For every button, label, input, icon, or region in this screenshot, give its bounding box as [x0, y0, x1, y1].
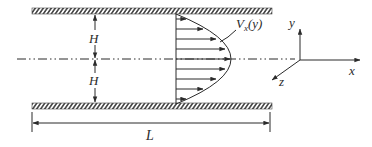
bottom-wall: [32, 103, 272, 109]
label-h-top: H: [88, 31, 99, 46]
top-wall: [32, 8, 272, 14]
label-length: L: [145, 128, 154, 143]
label-axis-x: x: [348, 63, 355, 78]
label-h-bottom: H: [88, 73, 99, 88]
velocity-profile: [176, 14, 236, 104]
channel-flow-diagram: H H Vx(y) L y x z: [0, 0, 372, 147]
coordinate-axes: [272, 29, 360, 80]
label-axis-z: z: [278, 74, 284, 89]
label-axis-y: y: [287, 15, 295, 30]
label-velocity: Vx(y): [236, 16, 262, 33]
